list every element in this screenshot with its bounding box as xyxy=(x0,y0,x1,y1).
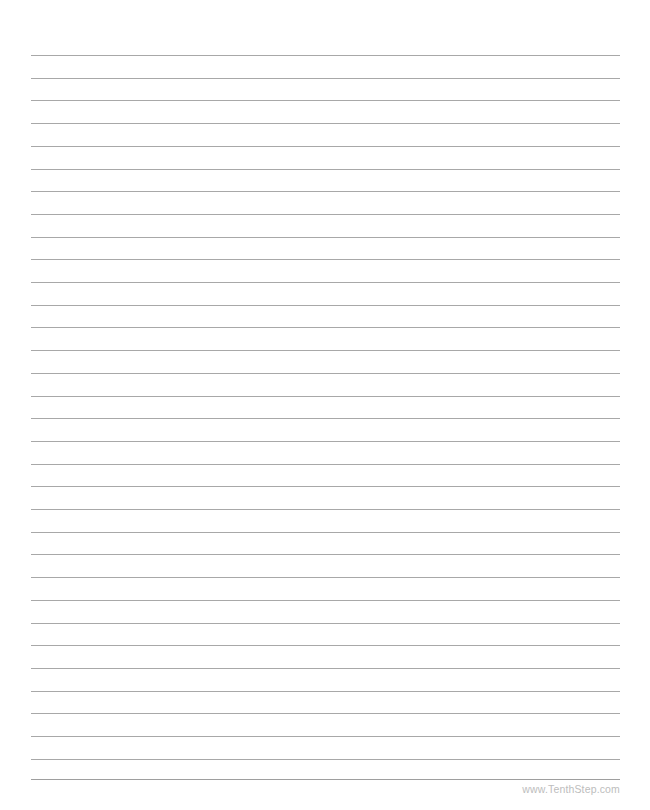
ruled-line xyxy=(31,759,620,760)
ruled-line xyxy=(31,441,620,442)
ruled-line xyxy=(31,691,620,692)
ruled-line xyxy=(31,623,620,624)
ruled-line xyxy=(31,282,620,283)
ruled-line xyxy=(31,736,620,737)
ruled-line xyxy=(31,418,620,419)
ruled-line xyxy=(31,713,620,714)
ruled-line xyxy=(31,509,620,510)
ruled-line xyxy=(31,123,620,124)
ruled-line xyxy=(31,259,620,260)
ruled-line xyxy=(31,668,620,669)
ruled-line xyxy=(31,577,620,578)
ruled-line xyxy=(31,532,620,533)
ruled-line xyxy=(31,600,620,601)
ruled-line xyxy=(31,350,620,351)
ruled-line xyxy=(31,146,620,147)
ruled-line xyxy=(31,78,620,79)
ruled-line xyxy=(31,237,620,238)
footer-website-credit: www.TenthStep.com xyxy=(522,783,620,795)
ruled-line xyxy=(31,305,620,306)
ruled-line xyxy=(31,486,620,487)
footer-separator-rule xyxy=(31,779,620,780)
ruled-line xyxy=(31,327,620,328)
ruled-line xyxy=(31,55,620,56)
ruled-line xyxy=(31,100,620,101)
ruled-line xyxy=(31,554,620,555)
ruled-line xyxy=(31,396,620,397)
ruled-line xyxy=(31,191,620,192)
ruled-writing-area xyxy=(0,0,650,810)
ruled-line xyxy=(31,214,620,215)
ruled-line xyxy=(31,373,620,374)
lined-paper-page: www.TenthStep.com xyxy=(0,0,650,810)
ruled-line xyxy=(31,464,620,465)
ruled-line xyxy=(31,169,620,170)
ruled-line xyxy=(31,645,620,646)
